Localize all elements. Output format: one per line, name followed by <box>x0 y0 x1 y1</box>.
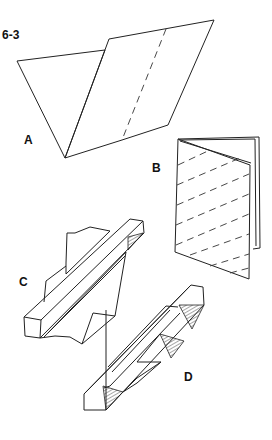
panel-c-drawing <box>24 219 144 344</box>
panel-b-drawing <box>175 137 260 279</box>
folding-illustration <box>0 0 272 440</box>
panel-a-drawing <box>17 20 214 158</box>
panel-d-drawing <box>84 285 204 410</box>
